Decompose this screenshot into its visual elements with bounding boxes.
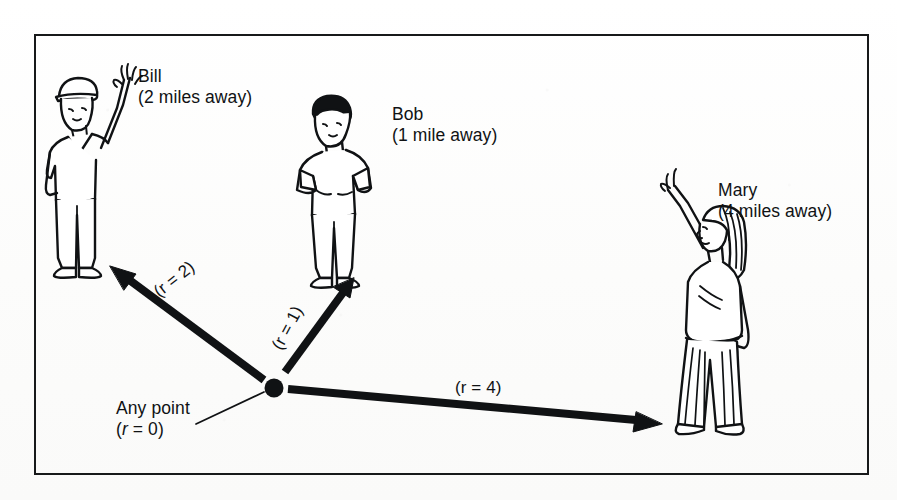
label-mary-distance: (4 miles away): [718, 201, 832, 221]
vector-label-r4: (r = 4): [455, 378, 502, 398]
origin-label-line2: (r = 0): [116, 419, 164, 439]
origin-label-line1: Any point: [116, 398, 190, 418]
label-bill-distance: (2 miles away): [138, 87, 252, 107]
label-bill: Bill (2 miles away): [138, 66, 252, 108]
label-mary: Mary (4 miles away): [718, 180, 832, 222]
diagram-page: Bill (2 miles away) Bob (1 mile away) Ma…: [0, 0, 897, 500]
label-bob-name: Bob: [392, 104, 423, 124]
label-bill-name: Bill: [138, 66, 162, 86]
label-mary-name: Mary: [718, 180, 757, 200]
label-bob-distance: (1 mile away): [392, 125, 497, 145]
label-bob: Bob (1 mile away): [392, 104, 497, 146]
label-origin-point: Any point (r = 0): [116, 398, 190, 440]
